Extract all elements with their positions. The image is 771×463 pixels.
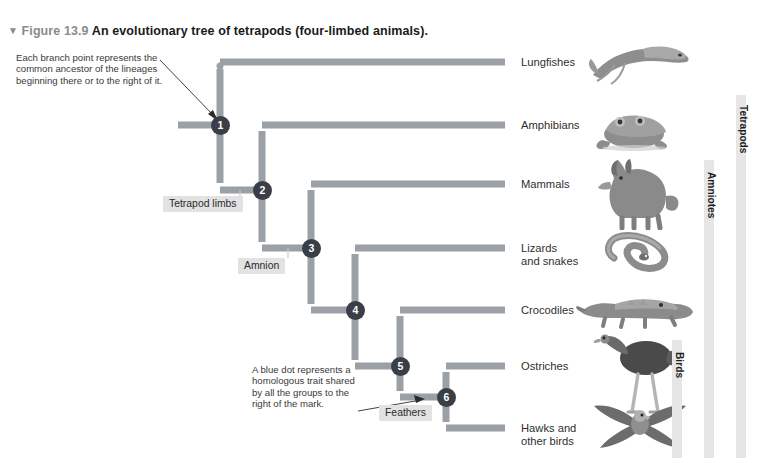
taxon-label-hawks: Hawks and other birds [521,422,576,448]
snake-illustration [594,228,682,276]
branch-point-2[interactable]: 2 [253,181,272,200]
branch-point-6[interactable]: 6 [437,388,456,407]
crocodile-illustration [575,286,697,332]
branch-point-5[interactable]: 5 [391,357,410,376]
taxon-label-amphibians: Amphibians [521,119,579,132]
figure-container: ▼ Figure 13.9 An evolutionary tree of te… [0,0,771,463]
frog-illustration [588,108,680,154]
leader-branch-point [160,60,214,116]
trait-chip-feathers: Feathers [379,405,432,421]
clade-label-amniotes: Amniotes [706,172,717,218]
branch-point-1[interactable]: 1 [211,116,230,135]
taxon-label-crocodiles: Crocodiles [521,304,574,317]
lungfish-illustration [585,35,695,87]
trait-chip-amnion: Amnion [238,258,285,274]
taxon-label-mammals: Mammals [521,178,569,191]
branch-point-4[interactable]: 4 [346,301,365,320]
taxon-label-ostriches: Ostriches [521,360,568,373]
clade-label-tetrapods: Tetrapods [738,105,749,154]
clade-label-birds: Birds [674,352,685,378]
taxon-label-lungfishes: Lungfishes [521,56,575,69]
trait-chip-tetrapod-limbs: Tetrapod limbs [163,196,243,212]
taxon-label-lizards: Lizards and snakes [521,242,578,268]
branch-point-3[interactable]: 3 [302,239,321,258]
wolf-illustration [592,152,684,230]
